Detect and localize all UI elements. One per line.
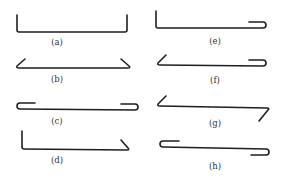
shape-g: (g) [158, 96, 269, 128]
shape-a: (a) [17, 15, 127, 47]
label-b: (b) [51, 74, 63, 84]
shape-e: (e) [156, 11, 266, 46]
label-h: (h) [209, 161, 221, 171]
bar-h [160, 141, 269, 155]
bar-f [158, 55, 266, 66]
bar-a [17, 15, 127, 32]
shape-d: (d) [22, 131, 129, 165]
bar-c [17, 103, 138, 110]
label-g: (g) [209, 118, 221, 128]
label-e: (e) [209, 36, 221, 46]
bar-d [22, 131, 129, 150]
shape-b: (b) [17, 59, 130, 84]
label-f: (f) [210, 75, 220, 85]
shape-h: (h) [160, 141, 269, 171]
label-a: (a) [51, 37, 63, 47]
shape-c: (c) [17, 103, 138, 126]
bar-b [17, 59, 130, 68]
label-d: (d) [51, 155, 63, 165]
shape-f: (f) [158, 55, 266, 85]
label-c: (c) [51, 116, 62, 126]
rebar-shapes-diagram: (a) (b) (c) (d) (e) (f) (g) (h) [0, 0, 285, 180]
bar-e [156, 11, 266, 28]
